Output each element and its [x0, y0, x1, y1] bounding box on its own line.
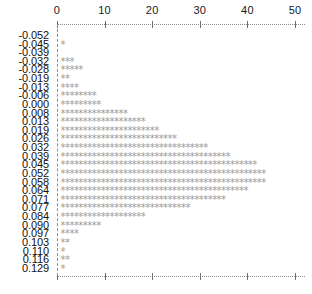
asterisk-rows: ****************************************…	[0, 0, 312, 294]
stem-leaf-histogram-figure: 01020304050 -0.052-0.045-0.039-0.032-0.0…	[0, 0, 312, 294]
asterisk-row-27: *	[60, 264, 64, 274]
asterisk-row-1: *	[60, 40, 64, 50]
